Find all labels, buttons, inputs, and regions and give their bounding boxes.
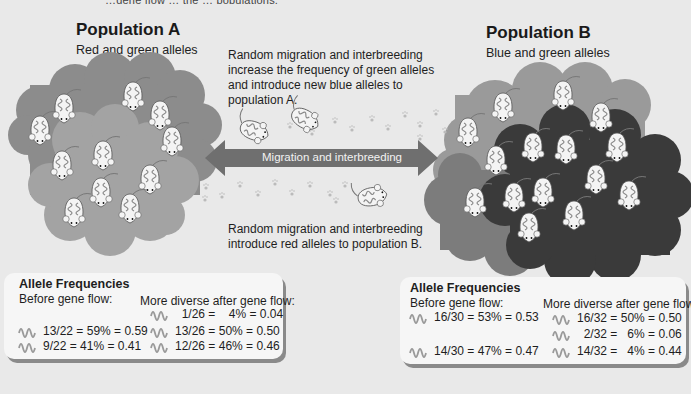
- red-allele-squiggle-icon: [552, 328, 574, 340]
- green-allele-squiggle-icon: [18, 340, 40, 352]
- freq-a-before-label: Before gene flow:: [19, 292, 112, 306]
- freq-b-title: Allele Frequencies: [410, 281, 520, 295]
- freq-a-after-red: 13/26 = 50% = 0.50: [150, 324, 280, 338]
- freq-b-after-blue: 16/32 = 50% = 0.50: [552, 311, 682, 325]
- freq-b-after-red: 2/32 = 6% = 0.06: [552, 327, 682, 341]
- freq-a-before-green: 9/22 = 41% = 0.41: [18, 339, 141, 353]
- freq-b-after-green: 14/32 = 4% = 0.44: [552, 344, 682, 358]
- freq-a-before-red: 13/22 = 59% = 0.59: [18, 324, 148, 338]
- green-allele-squiggle-icon: [150, 340, 172, 352]
- allele-frequencies-b: Allele Frequencies Before gene flow: Mor…: [400, 277, 686, 364]
- freq-value: 16/32 = 50% = 0.50: [577, 311, 682, 325]
- freq-value: 13/22 = 59% = 0.59: [43, 324, 148, 338]
- freq-value: 12/26 = 46% = 0.46: [175, 339, 280, 353]
- freq-value: 9/22 = 41% = 0.41: [43, 339, 141, 353]
- freq-b-before-label: Before gene flow:: [410, 296, 503, 310]
- blue-allele-squiggle-icon: [150, 308, 172, 320]
- green-allele-squiggle-icon: [552, 345, 574, 357]
- green-allele-squiggle-icon: [409, 345, 431, 357]
- red-allele-squiggle-icon: [150, 325, 172, 337]
- migration-arrow-label: Migration and interbreeding: [262, 151, 402, 163]
- red-allele-squiggle-icon: [18, 325, 40, 337]
- freq-value: 13/26 = 50% = 0.50: [175, 324, 280, 338]
- blue-allele-squiggle-icon: [409, 311, 431, 323]
- freq-value: 16/30 = 53% = 0.53: [434, 310, 539, 324]
- allele-frequencies-a: Allele Frequencies Before gene flow: Mor…: [4, 273, 283, 359]
- freq-a-after-label: More diverse after gene flow:: [140, 294, 295, 308]
- freq-value: 2/32 = 6% = 0.06: [577, 327, 682, 341]
- blue-allele-squiggle-icon: [552, 312, 574, 324]
- freq-value: 1/26 = 4% = 0.04: [175, 307, 283, 321]
- freq-b-before-green: 14/30 = 47% = 0.47: [409, 344, 539, 358]
- freq-b-after-label: More diverse after gene flow:: [543, 297, 691, 311]
- freq-a-title: Allele Frequencies: [19, 277, 129, 291]
- freq-a-after-green: 12/26 = 46% = 0.46: [150, 339, 280, 353]
- freq-b-before-blue: 16/30 = 53% = 0.53: [409, 310, 539, 324]
- freq-a-after-blue: 1/26 = 4% = 0.04: [150, 307, 283, 321]
- freq-value: 14/30 = 47% = 0.47: [434, 344, 539, 358]
- freq-value: 14/32 = 4% = 0.44: [577, 344, 682, 358]
